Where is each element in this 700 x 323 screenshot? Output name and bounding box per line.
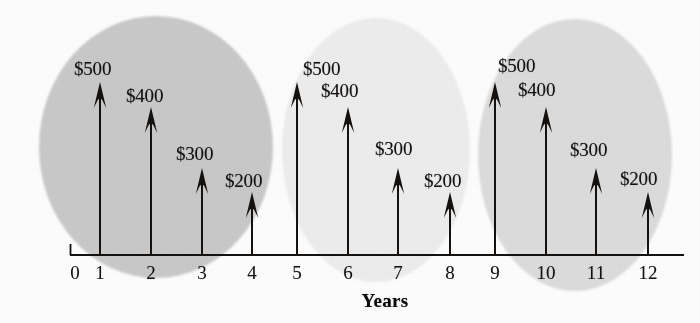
axis-title-years: Years	[362, 290, 409, 312]
group-ellipse-1	[39, 16, 273, 278]
amount-label-5: $500	[303, 58, 340, 80]
amount-label-6: $400	[321, 80, 358, 102]
tick-label-10: 10	[531, 262, 561, 284]
amount-label-9: $500	[498, 55, 535, 77]
amount-label-4: $200	[225, 170, 262, 192]
tick-label-5: 5	[282, 262, 312, 284]
amount-label-12: $200	[620, 168, 657, 190]
tick-label-4: 4	[237, 262, 267, 284]
amount-label-10: $400	[518, 79, 555, 101]
tick-label-2: 2	[136, 262, 166, 284]
amount-label-8: $200	[424, 170, 461, 192]
tick-label-1: 1	[85, 262, 115, 284]
tick-label-7: 7	[383, 262, 413, 284]
tick-label-6: 6	[333, 262, 363, 284]
figure-canvas: $500$400$300$200$500$400$300$200$500$400…	[0, 0, 700, 323]
tick-label-8: 8	[435, 262, 465, 284]
tick-label-12: 12	[633, 262, 663, 284]
amount-label-7: $300	[375, 138, 412, 160]
amount-label-11: $300	[570, 139, 607, 161]
amount-label-1: $500	[74, 58, 111, 80]
amount-label-2: $400	[126, 85, 163, 107]
tick-label-11: 11	[581, 262, 611, 284]
amount-label-3: $300	[176, 143, 213, 165]
tick-label-3: 3	[187, 262, 217, 284]
tick-label-9: 9	[480, 262, 510, 284]
